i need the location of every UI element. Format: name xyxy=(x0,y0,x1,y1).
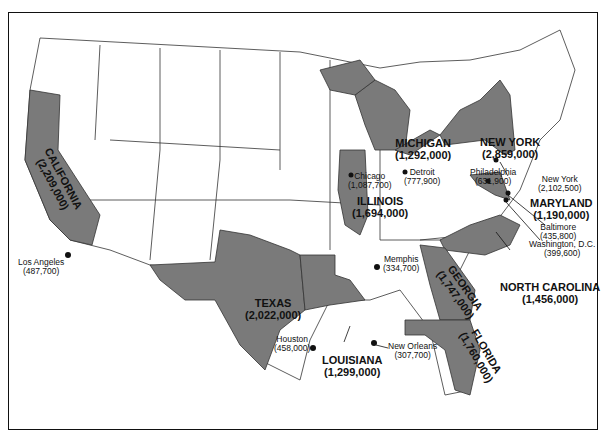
label-houston: Houston (458,000) xyxy=(274,335,310,353)
state-value: (1,292,000) xyxy=(395,150,451,162)
label-chicago: Chicago (1,087,700) xyxy=(348,172,391,190)
state-name: MARYLAND xyxy=(530,198,593,210)
city-value: (1,087,700) xyxy=(348,181,391,190)
label-philadelphia: Philadelphia (631,900) xyxy=(470,168,516,186)
label-michigan: MICHIGAN (1,292,000) xyxy=(395,138,451,161)
label-north-carolina: NORTH CAROLINA (1,456,000) xyxy=(500,282,600,305)
state-name: TEXAS xyxy=(245,298,301,310)
dot-houston xyxy=(310,345,316,351)
dot-memphis xyxy=(374,264,380,270)
state-value: (1,456,000) xyxy=(500,294,600,306)
state-value: (2,859,000) xyxy=(480,149,540,161)
label-new-york-city: New York (2,102,500) xyxy=(538,175,581,193)
city-value: (777,900) xyxy=(404,177,440,186)
dot-washington xyxy=(504,198,509,203)
state-name: MICHIGAN xyxy=(395,138,451,150)
label-maryland: MARYLAND (1,190,000) xyxy=(530,198,593,221)
city-value: (458,000) xyxy=(274,344,310,353)
city-value: (487,700) xyxy=(18,267,64,276)
label-los-angeles: Los Angeles (487,700) xyxy=(18,258,64,276)
dot-baltimore xyxy=(506,191,511,196)
state-name: NORTH CAROLINA xyxy=(500,282,600,294)
label-memphis: Memphis (334,700) xyxy=(383,255,419,273)
label-texas: TEXAS (2,022,000) xyxy=(245,298,301,321)
state-value: (1,190,000) xyxy=(530,210,593,222)
state-name: LOUISIANA xyxy=(322,355,383,367)
label-washington-dc: Washington, D.C. (399,600) xyxy=(529,240,595,258)
dot-los-angeles xyxy=(65,252,71,258)
label-new-orleans: New Orleans (307,700) xyxy=(388,342,437,360)
state-name: NEW YORK xyxy=(480,137,540,149)
state-value: (1,299,000) xyxy=(322,367,383,379)
city-value: (2,102,500) xyxy=(538,184,581,193)
state-value: (1,694,000) xyxy=(352,208,408,220)
state-name: ILLINOIS xyxy=(352,196,408,208)
state-value: (2,022,000) xyxy=(245,310,301,322)
label-illinois: ILLINOIS (1,694,000) xyxy=(352,196,408,219)
us-map xyxy=(0,0,604,438)
label-detroit: Detroit (777,900) xyxy=(404,168,440,186)
city-value: (631,900) xyxy=(470,177,516,186)
label-louisiana: LOUISIANA (1,299,000) xyxy=(322,355,383,378)
city-value: (307,700) xyxy=(388,351,437,360)
city-value: (399,600) xyxy=(529,249,595,258)
city-value: (334,700) xyxy=(383,264,419,273)
label-new-york: NEW YORK (2,859,000) xyxy=(480,137,540,160)
